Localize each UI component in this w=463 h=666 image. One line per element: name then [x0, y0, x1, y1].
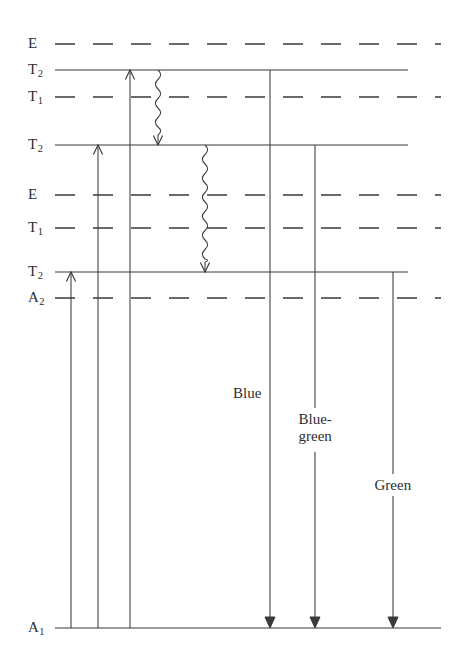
- emission-blue-head: [265, 617, 275, 628]
- emission-green: [388, 272, 398, 628]
- absorption-green: [66, 272, 75, 628]
- absorption-bluegreen: [93, 145, 102, 628]
- emission-blue: [265, 70, 275, 628]
- level-label-subscript: 1: [39, 626, 44, 637]
- emission-label-line: Green: [375, 477, 412, 494]
- level-label-subscript: 2: [39, 296, 44, 307]
- emission-green-head: [388, 617, 398, 628]
- relaxation-lower-shaft: [202, 145, 207, 262]
- level-label-t2-top: T2: [28, 62, 43, 79]
- level-label-base: T: [28, 88, 37, 104]
- level-label-subscript: 2: [38, 270, 43, 281]
- level-label-e-top: E: [28, 36, 37, 51]
- level-label-t1-upper: T1: [28, 89, 43, 106]
- emission-label-emission-bluegreen: Blue-green: [299, 411, 332, 445]
- level-label-a2: A2: [28, 290, 45, 307]
- level-label-base: A: [28, 289, 39, 305]
- level-label-t2-low: T2: [28, 264, 43, 281]
- emission-label-line: Blue: [233, 385, 261, 402]
- emission-label-line: green: [299, 428, 332, 445]
- level-label-subscript: 1: [38, 226, 43, 237]
- level-label-base: T: [28, 263, 37, 279]
- level-label-subscript: 2: [38, 68, 43, 79]
- diagram-canvas: [0, 0, 463, 666]
- absorption-blue: [125, 70, 134, 628]
- level-label-base: T: [28, 219, 37, 235]
- level-label-base: E: [28, 186, 37, 202]
- level-label-subscript: 2: [38, 143, 43, 154]
- relaxation-upper-shaft: [155, 70, 160, 135]
- emission-label-emission-blue: Blue: [233, 385, 261, 402]
- level-label-base: T: [28, 136, 37, 152]
- level-label-base: E: [28, 35, 37, 51]
- emission-label-emission-green: Green: [375, 477, 412, 494]
- level-label-e-mid: E: [28, 187, 37, 202]
- level-label-a1-ground: A1: [28, 620, 45, 637]
- level-label-subscript: 1: [38, 95, 43, 106]
- level-label-t2-mid: T2: [28, 137, 43, 154]
- emission-bluegreen: [310, 145, 320, 628]
- level-label-base: A: [28, 619, 39, 635]
- relaxation-upper: [153, 70, 162, 145]
- level-label-t1-lower: T1: [28, 220, 43, 237]
- energy-level-diagram: ET2T1T2ET1T2A2A1 BlueBlue-greenGreen: [0, 0, 463, 666]
- emission-bluegreen-head: [310, 617, 320, 628]
- relaxation-lower: [200, 145, 209, 272]
- emission-label-line: Blue-: [299, 411, 332, 428]
- level-label-base: T: [28, 61, 37, 77]
